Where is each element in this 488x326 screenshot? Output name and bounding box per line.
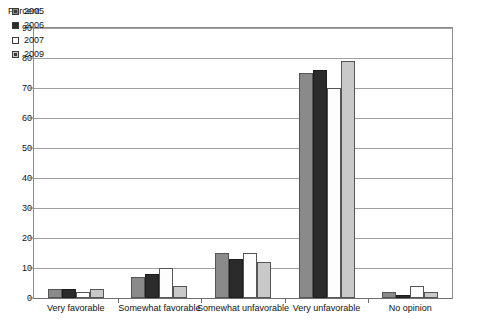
bar-2009-very-unfavorable: [341, 61, 355, 298]
bar-2007-very-unfavorable: [327, 88, 341, 298]
solid-black-swatch: [12, 22, 19, 29]
bar-2009-no-opinion: [424, 292, 438, 298]
bar-2005-somewhat-unfavorable: [215, 253, 229, 298]
bar-2007-no-opinion: [410, 286, 424, 298]
bar-group: [215, 28, 271, 298]
bar-2006-somewhat-favorable: [145, 274, 159, 298]
x-axis-tick-label: Very favorable: [47, 303, 105, 313]
legend-item-label: 2005: [24, 7, 44, 16]
bar-group: [382, 28, 438, 298]
bar-group: [299, 28, 355, 298]
bar-2009-somewhat-favorable: [173, 286, 187, 298]
x-axis-tick-mark: [118, 299, 119, 303]
x-axis-tick-label: Somewhat favorable: [118, 303, 200, 313]
legend-item-2005: 2005: [12, 6, 44, 16]
legend-item-label: 2009: [24, 50, 44, 59]
chart-legend: 2005200620072009: [12, 6, 44, 60]
bar-2005-very-unfavorable: [299, 73, 313, 298]
gray-inner-square-swatch: [12, 8, 19, 15]
bar-group: [48, 28, 104, 298]
bar-2007-somewhat-unfavorable: [243, 253, 257, 298]
bar-2005-very-favorable: [48, 289, 62, 298]
bar-2009-very-favorable: [90, 289, 104, 298]
bar-2007-very-favorable: [76, 292, 90, 298]
bar-2007-somewhat-favorable: [159, 268, 173, 298]
bar-2006-very-unfavorable: [313, 70, 327, 298]
bar-2006-very-favorable: [62, 289, 76, 298]
legend-item-label: 2006: [24, 21, 44, 30]
plot-area: [33, 27, 453, 299]
bar-2006-no-opinion: [396, 295, 410, 298]
bar-2006-somewhat-unfavorable: [229, 259, 243, 298]
legend-item-2006: 2006: [12, 21, 44, 31]
bar-chart: Percent 0102030405060708090 200520062007…: [0, 0, 488, 326]
x-axis-tick-mark: [201, 299, 202, 303]
x-axis-tick-label: No opinion: [389, 303, 432, 313]
bars-layer: [34, 28, 452, 298]
bar-2005-somewhat-favorable: [131, 277, 145, 298]
light-gray-swatch: [12, 51, 19, 58]
gridline: [34, 298, 452, 299]
x-axis-tick-mark: [368, 299, 369, 303]
legend-item-2007: 2007: [12, 35, 44, 45]
bar-2009-somewhat-unfavorable: [257, 262, 271, 298]
bar-2005-no-opinion: [382, 292, 396, 298]
legend-item-label: 2007: [24, 36, 44, 45]
x-axis-tick-label: Somewhat unfavorable: [197, 303, 289, 313]
bar-group: [131, 28, 187, 298]
white-empty-swatch: [12, 37, 19, 44]
x-axis-tick-mark: [285, 299, 286, 303]
x-axis-tick-label: Very unfavorable: [293, 303, 361, 313]
legend-item-2009: 2009: [12, 50, 44, 60]
